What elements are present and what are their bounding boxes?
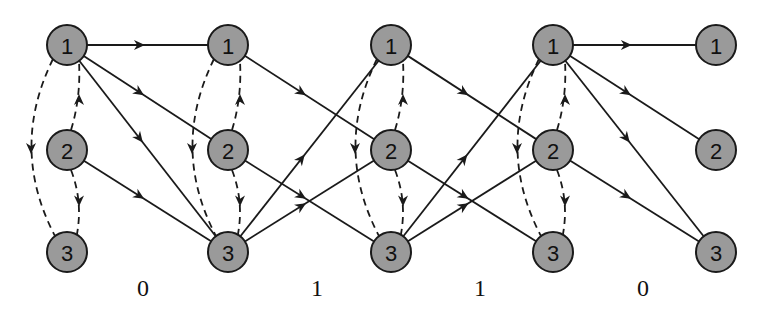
stage-label-1: 1 — [311, 275, 323, 301]
arrowhead-icon — [619, 131, 630, 143]
state-node-3-2: 2 — [533, 130, 573, 170]
node-label: 1 — [547, 34, 559, 59]
arrowhead-icon — [132, 189, 144, 199]
transition-edge — [570, 56, 699, 139]
arrowhead-icon — [398, 196, 408, 207]
stage-label-0: 0 — [137, 275, 149, 301]
transition-edge — [245, 56, 374, 139]
transition-edge — [570, 161, 699, 242]
stage-label-3: 0 — [637, 275, 649, 301]
node-label: 2 — [385, 139, 397, 164]
stage-input-labels: 0110 — [137, 275, 649, 301]
node-label: 3 — [547, 241, 559, 266]
dashed-edge-2-to-1 — [71, 61, 79, 130]
state-node-1-1: 1 — [208, 25, 248, 65]
arrowhead-icon — [619, 189, 631, 199]
arrowhead-icon — [457, 203, 469, 213]
node-label: 2 — [710, 139, 722, 164]
stage-label-2: 1 — [474, 275, 486, 301]
transition-edge — [84, 56, 211, 139]
transition-edge — [403, 61, 540, 236]
trellis-diagram: 123123123123123 0110 — [0, 0, 763, 315]
state-node-4-1: 1 — [696, 25, 736, 65]
arrowhead-icon — [294, 85, 306, 95]
state-node-3-3: 3 — [533, 232, 573, 272]
dashed-edge-2-to-1 — [557, 61, 565, 130]
node-label: 2 — [547, 139, 559, 164]
node-label: 2 — [222, 139, 234, 164]
arrowhead-icon — [235, 94, 245, 105]
arrowhead-icon — [294, 189, 306, 199]
arrowhead-icon — [560, 94, 570, 105]
node-label: 3 — [61, 241, 73, 266]
node-label: 1 — [222, 34, 234, 59]
dashed-edge-2-to-1 — [232, 61, 240, 130]
transition-edge — [408, 56, 536, 139]
node-label: 2 — [61, 139, 73, 164]
dashed-edge-2-to-1 — [395, 61, 403, 130]
state-node-1-2: 2 — [208, 130, 248, 170]
state-node-0-3: 3 — [47, 232, 87, 272]
node-label: 1 — [385, 34, 397, 59]
arrowhead-icon — [457, 189, 469, 199]
arrowhead-icon — [619, 85, 631, 95]
state-node-4-2: 2 — [696, 130, 736, 170]
transition-edge — [565, 61, 703, 237]
state-node-3-1: 1 — [533, 25, 573, 65]
state-node-2-3: 3 — [371, 232, 411, 272]
node-label: 1 — [710, 34, 722, 59]
transition-edge — [79, 61, 215, 236]
transition-edge — [84, 161, 211, 242]
arrowhead-icon — [235, 196, 245, 207]
arrowhead-icon — [74, 196, 84, 207]
arrowhead-icon — [457, 85, 469, 95]
state-node-0-2: 2 — [47, 130, 87, 170]
state-node-0-1: 1 — [47, 25, 87, 65]
node-label: 1 — [61, 34, 73, 59]
arrowhead-icon — [294, 203, 306, 213]
state-node-1-3: 3 — [208, 232, 248, 272]
node-label: 3 — [385, 241, 397, 266]
arrowhead-icon — [294, 155, 305, 167]
arrowhead-icon — [457, 155, 468, 167]
transition-edge — [240, 61, 378, 237]
dashed-transitions — [26, 59, 570, 236]
state-node-2-2: 2 — [371, 130, 411, 170]
node-label: 3 — [222, 241, 234, 266]
state-nodes: 123123123123123 — [47, 25, 736, 272]
arrowhead-icon — [74, 94, 84, 105]
arrowhead-icon — [132, 85, 144, 95]
arrowhead-icon — [560, 196, 570, 207]
arrowhead-icon — [398, 94, 408, 105]
node-label: 3 — [710, 241, 722, 266]
arrowhead-icon — [132, 131, 143, 143]
state-node-2-1: 1 — [371, 25, 411, 65]
state-node-4-3: 3 — [696, 232, 736, 272]
